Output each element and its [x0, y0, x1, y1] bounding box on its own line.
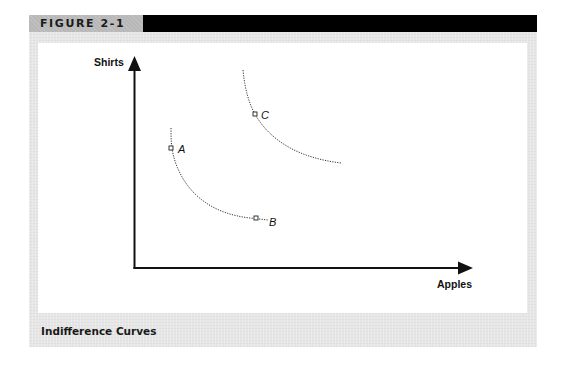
- indifference-curve-chart: Shirts Apples A B C: [0, 0, 561, 365]
- point-c-marker: [253, 112, 257, 116]
- point-a-label: A: [177, 143, 185, 155]
- indifference-curve-1: [171, 128, 268, 220]
- x-axis: [134, 262, 474, 275]
- x-axis-label: Apples: [437, 278, 472, 290]
- x-axis-arrow-icon: [458, 262, 473, 275]
- point-b-marker: [254, 216, 258, 220]
- y-axis-label: Shirts: [94, 56, 124, 68]
- indifference-curve-2: [243, 70, 341, 163]
- point-c-label: C: [261, 109, 269, 121]
- point-a-marker: [169, 146, 173, 150]
- y-axis-arrow-icon: [128, 56, 141, 71]
- point-b-label: B: [269, 216, 276, 228]
- y-axis: [128, 56, 141, 269]
